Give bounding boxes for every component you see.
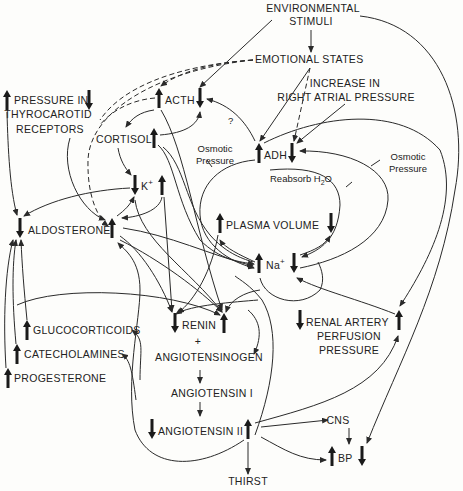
svg-text:Reabsorb H2O: Reabsorb H2O <box>270 173 332 186</box>
plus-sign: + <box>195 335 201 347</box>
down-arrow-icon <box>290 253 298 273</box>
node-renal-artery-perfusion-pressure: RENAL ARTERY PERFUSION PRESSURE <box>296 310 403 356</box>
svg-text:PLASMA VOLUME: PLASMA VOLUME <box>226 219 319 231</box>
svg-text:K+: K+ <box>141 178 153 192</box>
svg-text:CATECHOLAMINES: CATECHOLAMINES <box>24 348 125 360</box>
up-arrow-icon <box>4 368 12 388</box>
node-increase-right-atrial-pressure: INCREASE IN RIGHT ATRIAL PRESSURE <box>277 77 414 103</box>
down-arrow-icon <box>296 310 304 330</box>
svg-text:PRESSURE IN: PRESSURE IN <box>14 94 88 106</box>
up-arrow-icon <box>244 419 252 439</box>
connectors <box>5 16 459 474</box>
svg-text:Osmotic: Osmotic <box>391 151 426 162</box>
up-arrow-icon <box>255 253 263 273</box>
node-aldosterone: ALDOSTERONE <box>16 218 116 238</box>
svg-text:RECEPTORS: RECEPTORS <box>16 123 84 135</box>
svg-text:PROGESTERONE: PROGESTERONE <box>14 372 106 384</box>
svg-text:ADH: ADH <box>264 149 287 161</box>
svg-text:CORTISOL: CORTISOL <box>96 133 152 145</box>
node-angiotensin-1: ANGIOTENSIN I <box>171 387 253 399</box>
svg-text:INCREASE IN: INCREASE IN <box>310 77 380 89</box>
svg-text:RIGHT ATRIAL PRESSURE: RIGHT ATRIAL PRESSURE <box>277 91 414 103</box>
node-potassium: K+ <box>131 175 166 195</box>
up-arrow-icon <box>395 310 403 330</box>
up-arrow-icon <box>216 213 224 233</box>
down-arrow-icon <box>131 175 139 195</box>
svg-text:STIMULI: STIMULI <box>289 15 333 27</box>
svg-text:THYROCAROTID: THYROCAROTID <box>4 108 92 120</box>
node-environmental-stimuli: ENVIRONMENTAL STIMULI <box>266 2 360 27</box>
up-arrow-icon <box>255 143 263 163</box>
node-bp: BP <box>328 446 366 466</box>
svg-text:?: ? <box>228 115 233 126</box>
node-glucocorticoids: GLUCOCORTICOIDS <box>23 320 141 340</box>
up-arrow-icon <box>328 446 336 466</box>
svg-text:ANGIOTENSIN II: ANGIOTENSIN II <box>158 425 243 437</box>
svg-text:Pressure: Pressure <box>196 155 234 166</box>
node-pressure-thyrocarotid: PRESSURE IN THYROCAROTID RECEPTORS <box>3 90 93 135</box>
node-angiotensinogen: ANGIOTENSINOGEN <box>155 351 263 363</box>
node-renin: RENIN <box>171 313 228 333</box>
up-arrow-icon <box>23 320 31 340</box>
down-arrow-icon <box>148 419 156 439</box>
annotation-question: ? <box>228 115 233 126</box>
up-arrow-icon <box>220 313 228 333</box>
node-emotional-states: EMOTIONAL STATES <box>255 53 363 65</box>
node-acth: ACTH <box>155 88 204 108</box>
node-progesterone: PROGESTERONE <box>4 368 106 388</box>
regulation-diagram: ENVIRONMENTAL STIMULI EMOTIONAL STATES I… <box>0 0 463 491</box>
up-arrow-icon <box>158 175 166 195</box>
svg-text:ACTH: ACTH <box>165 94 195 106</box>
node-sodium: Na+ <box>255 253 298 273</box>
down-arrow-icon <box>196 88 204 108</box>
node-angiotensin-2: ANGIOTENSIN II <box>148 419 252 439</box>
svg-text:Pressure: Pressure <box>389 163 427 174</box>
svg-text:BP: BP <box>338 452 353 464</box>
down-arrow-icon <box>327 213 335 233</box>
down-arrow-icon <box>358 446 366 466</box>
down-arrow-icon <box>171 313 179 333</box>
up-arrow-icon <box>13 344 21 364</box>
svg-text:ALDOSTERONE: ALDOSTERONE <box>28 224 111 236</box>
svg-text:RENAL ARTERY: RENAL ARTERY <box>306 316 389 328</box>
node-plasma-volume: PLASMA VOLUME <box>216 213 335 233</box>
down-arrow-icon <box>16 218 24 238</box>
svg-text:Na+: Na+ <box>266 257 285 271</box>
svg-text:ENVIRONMENTAL: ENVIRONMENTAL <box>266 2 360 14</box>
up-arrow-icon <box>155 88 163 108</box>
node-adh: ADH <box>255 143 296 163</box>
annotation-osmotic-pressure-right: Osmotic Pressure <box>389 151 427 174</box>
down-arrow-icon <box>288 143 296 163</box>
node-thirst: THIRST <box>228 475 268 487</box>
svg-text:Osmotic: Osmotic <box>198 143 233 154</box>
svg-text:GLUCOCORTICOIDS: GLUCOCORTICOIDS <box>33 324 141 336</box>
svg-text:PERFUSION: PERFUSION <box>317 330 381 342</box>
up-arrow-icon <box>3 90 11 110</box>
node-cns: CNS <box>326 414 349 426</box>
svg-text:RENIN: RENIN <box>182 319 216 331</box>
node-catecholamines: CATECHOLAMINES <box>13 344 125 364</box>
diagram-canvas: ENVIRONMENTAL STIMULI EMOTIONAL STATES I… <box>0 0 463 491</box>
svg-text:PRESSURE: PRESSURE <box>319 344 379 356</box>
node-cortisol: CORTISOL <box>96 128 158 148</box>
annotation-reabsorb-h2o: Reabsorb H2O <box>270 173 332 186</box>
annotation-osmotic-pressure-left: Osmotic Pressure <box>196 143 234 166</box>
